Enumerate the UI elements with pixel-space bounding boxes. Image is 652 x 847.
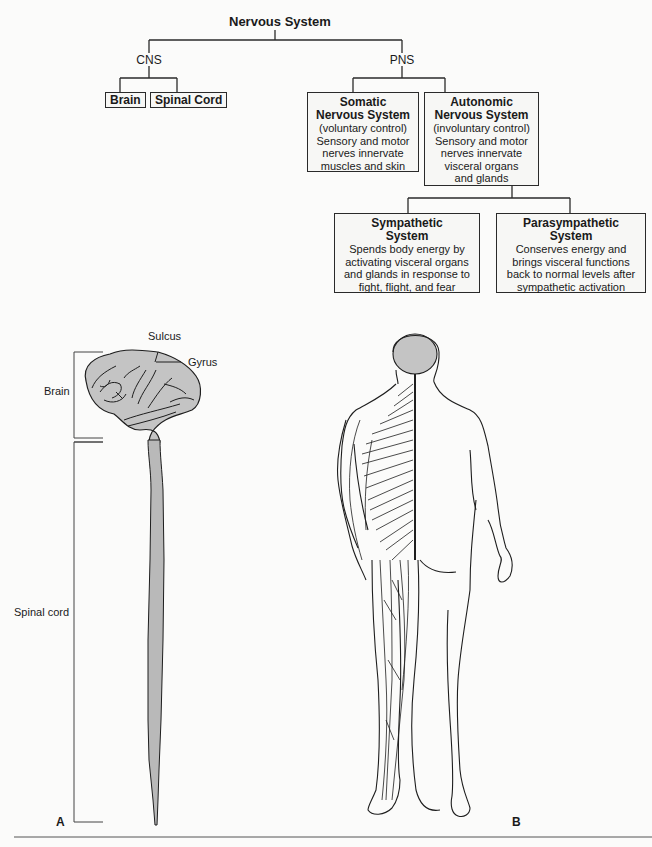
sympathetic-line-2: activating visceral organs [338, 256, 476, 269]
somatic-title-2: Nervous System [311, 109, 415, 122]
autonomic-line-4: visceral organs [428, 160, 535, 173]
brain-illustration [85, 350, 200, 442]
brain-bracket-label: Brain [44, 385, 70, 397]
somatic-line-4: muscles and skin [311, 160, 415, 173]
autonomic-line-5: and glands [428, 172, 535, 185]
spinal-cord-box: Spinal Cord [150, 92, 227, 108]
autonomic-nervous-system-box: Autonomic Nervous System (involuntary co… [424, 92, 539, 186]
autonomic-line-3: nerves innervate [428, 147, 535, 160]
spinal-cord-bracket-label: Spinal cord [14, 606, 69, 618]
sympathetic-system-box: Sympathetic System Spends body energy by… [334, 213, 480, 293]
autonomic-title-2: Nervous System [428, 109, 535, 122]
somatic-line-1: (voluntary control) [311, 122, 415, 135]
root-node-nervous-system: Nervous System [229, 14, 323, 29]
autonomic-line-1: (involuntary control) [428, 122, 535, 135]
sympathetic-line-4: fight, flight, and fear [338, 281, 476, 294]
somatic-line-3: nerves innervate [311, 147, 415, 160]
autonomic-line-2: Sensory and motor [428, 135, 535, 148]
gyrus-label: Gyrus [188, 356, 217, 368]
body-illustration [337, 334, 512, 817]
somatic-line-2: Sensory and motor [311, 135, 415, 148]
parasympathetic-line-1: Conserves energy and [500, 243, 642, 256]
somatic-nervous-system-box: Somatic Nervous System (voluntary contro… [307, 92, 419, 172]
sulcus-label: Sulcus [148, 330, 181, 342]
pns-label: PNS [389, 53, 415, 67]
sympathetic-line-1: Spends body energy by [338, 243, 476, 256]
parasympathetic-line-2: brings visceral functions [500, 256, 642, 269]
spinal-cord-illustration [148, 440, 164, 825]
figure-b-letter: B [512, 815, 521, 829]
cns-label: CNS [136, 53, 162, 67]
parasympathetic-line-4: sympathetic activation [500, 281, 642, 294]
sympathetic-title-2: System [338, 230, 476, 243]
brain-box: Brain [105, 92, 146, 108]
sympathetic-line-3: and glands in response to [338, 268, 476, 281]
parasympathetic-system-box: Parasympathetic System Conserves energy … [496, 213, 646, 293]
parasympathetic-line-3: back to normal levels after [500, 268, 642, 281]
spinal-cord-box-label: Spinal Cord [155, 93, 222, 107]
parasympathetic-title-2: System [500, 230, 642, 243]
brain-box-label: Brain [110, 93, 141, 107]
nerve-branches [349, 384, 413, 800]
figure-a-letter: A [56, 815, 65, 829]
